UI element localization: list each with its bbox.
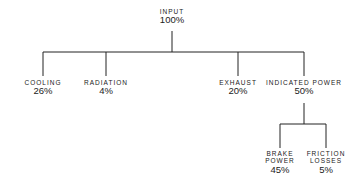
node-value: 50% xyxy=(266,86,342,97)
node-value: 5% xyxy=(307,165,346,176)
node-brake-power: BRAKE POWER 45% xyxy=(265,150,295,176)
node-friction-losses: FRICTION LOSSES 5% xyxy=(307,150,346,176)
node-cooling: COOLING 26% xyxy=(25,79,62,97)
energy-tree-diagram: INPUT 100% COOLING 26% RADIATION 4% EXHA… xyxy=(0,0,361,186)
node-label-line1: BRAKE xyxy=(265,150,295,157)
node-input: INPUT 100% xyxy=(160,8,185,26)
node-value: 100% xyxy=(160,15,185,26)
node-radiation: RADIATION 4% xyxy=(84,79,128,97)
node-value: 4% xyxy=(84,86,128,97)
node-exhaust: EXHAUST 20% xyxy=(219,79,257,97)
node-value: 26% xyxy=(25,86,62,97)
node-value: 45% xyxy=(265,165,295,176)
node-value: 20% xyxy=(219,86,257,97)
node-indicated-power: INDICATED POWER 50% xyxy=(266,79,342,97)
node-label-line1: FRICTION xyxy=(307,150,346,157)
